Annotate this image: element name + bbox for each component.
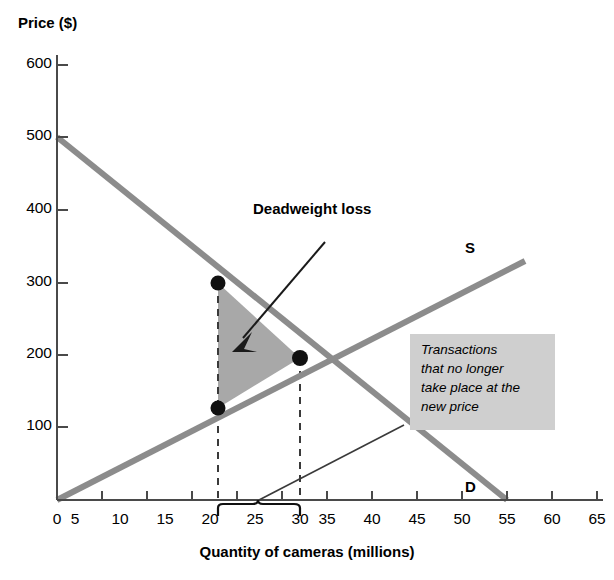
y-tick-label-200: 200 [14,344,52,362]
x-tick-label-55: 55 [487,510,527,528]
x-axis-ticks [102,491,597,500]
y-axis-title: Price ($) [18,14,77,31]
callout-line-2: that no longer [421,359,561,378]
x-tick-label-20: 20 [190,510,230,528]
demand-curve [57,137,507,500]
x-tick-label-60: 60 [532,510,572,528]
x-tick-label-10: 10 [100,510,140,528]
supply-point-at-q20 [211,401,226,416]
supply-demand-chart [0,0,614,580]
demand-curve-label: D [465,478,476,495]
equilibrium-point [292,350,308,366]
x-axis-title: Quantity of cameras (millions) [57,543,557,560]
y-tick-label-400: 400 [14,199,52,217]
y-tick-label-500: 500 [14,126,52,144]
deadweight-loss-arrow [232,242,325,352]
x-tick-label-45: 45 [397,510,437,528]
x-tick-label-5: 5 [55,510,95,528]
x-tick-label-35: 35 [307,510,347,528]
y-axis-ticks [57,65,68,427]
deadweight-loss-label: Deadweight loss [253,200,371,217]
demand-point-at-q20 [211,276,226,291]
x-tick-label-15: 15 [145,510,185,528]
chart-figure: Price ($) 600 500 400 300 200 100 0 5 10… [0,0,614,580]
callout-text-block: Transactions that no longer take place a… [421,340,561,416]
x-tick-label-40: 40 [352,510,392,528]
x-tick-label-65: 65 [577,510,614,528]
supply-curve-label: S [465,239,475,256]
y-tick-label-600: 600 [14,54,52,72]
callout-leader-line [259,425,404,500]
x-tick-label-25: 25 [235,510,275,528]
y-tick-label-100: 100 [14,416,52,434]
callout-line-3: take place at the [421,378,561,397]
callout-line-1: Transactions [421,340,561,359]
y-tick-label-300: 300 [14,272,52,290]
callout-line-4: new price [421,397,561,416]
x-tick-label-50: 50 [442,510,482,528]
